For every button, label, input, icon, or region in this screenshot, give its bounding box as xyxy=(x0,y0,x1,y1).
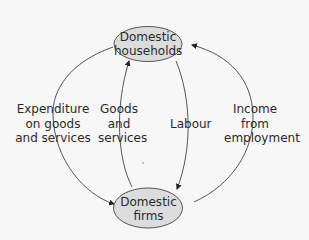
firms-node: Domestic firms xyxy=(114,195,183,223)
firms-label-line1: Domestic xyxy=(114,195,183,209)
firms-label-line2: firms xyxy=(114,209,183,223)
circular-flow-diagram: Domestic households Domestic firms Expen… xyxy=(0,0,309,240)
households-node: Domestic households xyxy=(114,30,182,58)
income-label-line3: employment xyxy=(224,131,286,146)
stray-dot xyxy=(142,162,143,163)
expenditure-label-line2: on goods xyxy=(14,117,92,132)
labour-flow-label: Labour xyxy=(170,117,210,132)
expenditure-label-line3: and services xyxy=(14,131,92,146)
households-label-line1: Domestic xyxy=(114,30,182,44)
income-flow-label: Income from employment xyxy=(224,102,286,146)
income-label-line1: Income xyxy=(224,102,286,117)
expenditure-flow-label: Expenditure on goods and services xyxy=(14,102,92,146)
goods-services-label-line1: Goods xyxy=(98,102,140,117)
income-label-line2: from xyxy=(224,117,286,132)
households-label-line2: households xyxy=(114,44,182,58)
labour-label-line1: Labour xyxy=(170,117,210,132)
expenditure-label-line1: Expenditure xyxy=(14,102,92,117)
goods-services-flow-label: Goods and services xyxy=(98,102,140,146)
goods-services-label-line2: and xyxy=(98,117,140,132)
goods-services-label-line3: services xyxy=(98,131,140,146)
